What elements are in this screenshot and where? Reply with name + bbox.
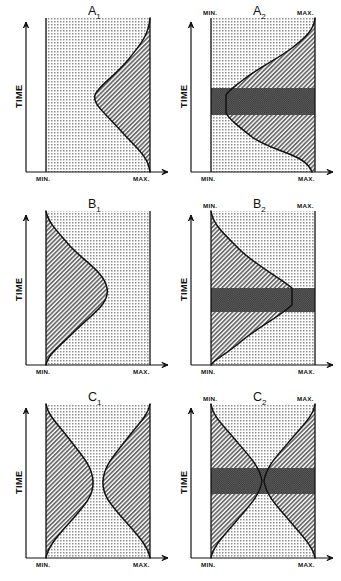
max-label-C2-bottom: MAX.: [298, 561, 315, 568]
time-axis-label-C2: TIME: [179, 471, 189, 495]
time-axis-label-B2: TIME: [179, 278, 189, 302]
panel-title-C1-letter: C: [88, 390, 97, 404]
figure-canvas: [0, 0, 341, 581]
panel-B2-fills: [211, 211, 315, 365]
min-label-C1-bottom: MIN.: [36, 561, 50, 568]
time-axis-label-B1: TIME: [14, 278, 24, 302]
panel-title-B1: B1: [88, 197, 101, 214]
panel-B2: [188, 211, 333, 368]
time-axis-label-A2: TIME: [179, 85, 189, 109]
min-label-B1-bottom: MIN.: [36, 368, 50, 375]
panel-title-A1-subscript: 1: [96, 12, 100, 21]
panel-B1: [23, 211, 168, 368]
min-label-A1-bottom: MIN.: [36, 175, 50, 182]
panel-B1-fills: [46, 211, 150, 365]
max-label-A2-top: MAX.: [297, 9, 314, 16]
panel-title-C2-subscript: 2: [262, 398, 266, 407]
max-label-A2-bottom: MAX.: [298, 175, 315, 182]
max-label-B2-bottom: MAX.: [298, 368, 315, 375]
panel-title-C2-letter: C: [253, 390, 262, 404]
min-label-A2-top: MIN.: [203, 9, 217, 16]
panel-title-A2-subscript: 2: [261, 12, 265, 21]
panel-title-C2: C2: [253, 390, 266, 407]
max-label-C1-bottom: MAX.: [133, 561, 150, 568]
panel-title-C1-subscript: 1: [97, 398, 101, 407]
time-axis-label-A1: TIME: [14, 85, 24, 109]
max-label-A1-bottom: MAX.: [133, 175, 150, 182]
panel-title-A2: A2: [253, 4, 266, 21]
min-label-B2-bottom: MIN.: [201, 368, 215, 375]
panel-title-B1-subscript: 1: [96, 205, 100, 214]
min-label-C2-top: MIN.: [203, 395, 217, 402]
min-label-B2-top: MIN.: [203, 202, 217, 209]
panel-C1-fills: [46, 404, 150, 558]
max-label-C2-top: MAX.: [297, 395, 314, 402]
dark-band: [211, 468, 315, 494]
time-axis-label-C1: TIME: [14, 471, 24, 495]
min-label-A2-bottom: MIN.: [201, 175, 215, 182]
figure-root: TIME MIN. MAX. A1 TIME MIN. MAX. MIN. MA…: [0, 0, 341, 581]
panel-A2: [188, 18, 333, 175]
panel-C1: [23, 404, 168, 561]
panel-title-B2-subscript: 2: [261, 205, 265, 214]
max-label-B1-bottom: MAX.: [133, 368, 150, 375]
panel-C2: [188, 404, 333, 561]
panel-C2-fills: [211, 404, 315, 558]
panel-title-B2: B2: [253, 197, 266, 214]
dark-band: [211, 288, 315, 312]
min-label-C2-bottom: MIN.: [201, 561, 215, 568]
panel-title-A1: A1: [88, 4, 101, 21]
panel-A1: [23, 18, 168, 175]
max-label-B2-top: MAX.: [297, 202, 314, 209]
panel-A1-fills: [46, 18, 150, 172]
panel-title-C1: C1: [88, 390, 101, 407]
